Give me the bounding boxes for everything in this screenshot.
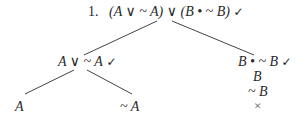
left-branch-formula: A ∨ ~ A ✓ (58, 55, 116, 69)
root-formula-line: 1. (A ∨ ~ A) ∨ (B • ~ B) ✓ (88, 5, 243, 19)
line-number: 1. (88, 4, 99, 19)
right-stack-not-b: ~ B (248, 85, 268, 99)
check-mark-icon: ✓ (106, 55, 116, 69)
right-branch-formula: B • ~ B ✓ (238, 55, 292, 69)
branch-line-left-to-not-a (87, 70, 132, 94)
branch-line-root-to-right (172, 21, 254, 55)
check-mark-icon: ✓ (282, 55, 292, 69)
right-formula: B • ~ B (238, 54, 278, 69)
closed-branch-x-icon: × (254, 99, 261, 112)
root-formula: (A ∨ ~ A) ∨ (B • ~ B) (109, 4, 230, 19)
leaf-not-a: ~ A (120, 100, 139, 114)
check-mark-icon: ✓ (233, 5, 243, 19)
left-formula: A ∨ ~ A (58, 54, 103, 69)
truth-tree-diagram: 1. (A ∨ ~ A) ∨ (B • ~ B) ✓ A ∨ ~ A ✓ B •… (0, 0, 306, 124)
branch-line-left-to-a (25, 70, 74, 94)
right-stack-b: B (253, 70, 262, 84)
leaf-a: A (15, 100, 24, 114)
branch-line-root-to-left (84, 21, 157, 55)
